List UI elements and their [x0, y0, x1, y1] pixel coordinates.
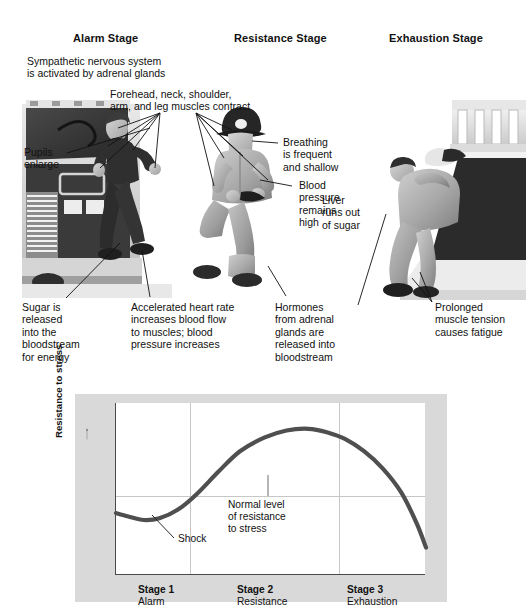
stage-heading-resistance: Resistance Stage — [234, 32, 327, 44]
callout-sugar: Sugar is released into the bloodstream f… — [22, 301, 80, 363]
chart-xcat-stage2-sub: Resistance — [237, 596, 287, 608]
callout-breathing: Breathing is frequent and shallow — [283, 136, 338, 173]
chart-xcat-stage3-sub: Exhaustion — [347, 596, 397, 608]
chart-xcat-stage1-sub: Alarm — [138, 596, 174, 608]
callout-hormones: Hormones from adrenal glands are release… — [275, 301, 335, 363]
gas-diagram: Alarm Stage Resistance Stage Exhaustion … — [0, 0, 526, 611]
chart-xcat-stage1-title: Stage 1 — [138, 584, 174, 596]
chart-xcat-stage2: Stage 2 Resistance — [237, 584, 287, 608]
chart-annotation-normal-level: Normal level of resistance to stress — [228, 499, 286, 536]
callout-heart-rate: Accelerated heart rate increases blood f… — [131, 301, 234, 351]
chart-xcat-stage1: Stage 1 Alarm — [138, 584, 174, 608]
callout-muscles: Forehead, neck, shoulder, arm, and leg m… — [110, 88, 250, 113]
chart-xcat-stage2-title: Stage 2 — [237, 584, 287, 596]
gas-resistance-chart: Resistance to stress Shock Normal level … — [75, 394, 447, 602]
y-axis-arrow-icon — [86, 408, 88, 460]
stage-heading-exhaustion: Exhaustion Stage — [389, 32, 483, 44]
stage-heading-alarm: Alarm Stage — [73, 32, 138, 44]
chart-curve — [116, 403, 426, 575]
fire-truck-illustration — [22, 100, 172, 298]
chart-xcat-stage3: Stage 3 Exhaustion — [347, 584, 397, 608]
callout-pupils: Pupils enlarge — [24, 146, 59, 171]
figure-resistance-kneeling — [193, 107, 274, 287]
chart-xcat-stage3-title: Stage 3 — [347, 584, 397, 596]
callout-liver: Liver runs out of sugar — [322, 194, 360, 231]
chart-plot-area: Shock Normal level of resistance to stre… — [115, 403, 425, 575]
chart-y-axis-label: Resistance to stress — [53, 345, 64, 438]
callout-sympathetic: Sympathetic nervous system is activated … — [27, 55, 165, 80]
chart-annotation-shock: Shock — [178, 533, 206, 545]
callout-fatigue: Prolonged muscle tension causes fatigue — [435, 301, 505, 338]
